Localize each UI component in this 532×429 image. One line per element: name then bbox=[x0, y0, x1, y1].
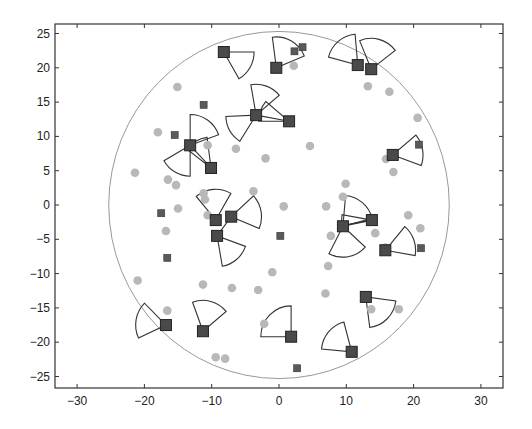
target-circle bbox=[172, 181, 181, 190]
target-circle bbox=[385, 88, 394, 97]
sensor-marker bbox=[387, 149, 398, 160]
sensor-marker bbox=[286, 331, 297, 342]
target-circle bbox=[389, 168, 398, 177]
small-square-marker bbox=[277, 232, 284, 239]
y-tick-label: −10 bbox=[30, 267, 51, 281]
target-circle bbox=[211, 353, 220, 362]
y-tick-label: −25 bbox=[30, 370, 51, 384]
y-tick-label: 10 bbox=[37, 129, 51, 143]
x-tick-label: −10 bbox=[202, 394, 223, 408]
target-circle bbox=[306, 142, 315, 151]
sensor-marker bbox=[218, 47, 229, 58]
chart-figure: −30−20−100102030 −25−20−15−10−5051015202… bbox=[0, 0, 532, 429]
sensor-marker bbox=[337, 221, 348, 232]
target-circle bbox=[232, 144, 241, 153]
target-circle bbox=[290, 61, 299, 70]
sensor-marker bbox=[352, 60, 363, 71]
target-circle bbox=[199, 280, 208, 289]
target-circle bbox=[221, 354, 230, 363]
target-circle bbox=[163, 306, 172, 315]
target-circle bbox=[249, 187, 258, 196]
target-circle bbox=[404, 211, 413, 220]
small-square-marker bbox=[299, 44, 306, 51]
target-circle bbox=[413, 114, 422, 123]
small-square-marker bbox=[418, 245, 425, 252]
small-square-marker bbox=[200, 101, 207, 108]
sensor-marker bbox=[366, 64, 377, 75]
target-circle bbox=[133, 276, 142, 285]
target-circle bbox=[201, 195, 210, 204]
target-circle bbox=[154, 128, 163, 137]
target-circle bbox=[162, 227, 171, 236]
small-square-marker bbox=[415, 141, 422, 148]
x-tick-label: 10 bbox=[340, 394, 354, 408]
sensor-marker bbox=[271, 62, 282, 73]
x-tick-label: 30 bbox=[474, 394, 488, 408]
x-tick-label: 0 bbox=[276, 394, 283, 408]
sensor-marker bbox=[251, 110, 262, 121]
sensor-marker bbox=[366, 215, 377, 226]
sensor-marker bbox=[360, 291, 371, 302]
target-circle bbox=[203, 141, 212, 150]
small-square-marker bbox=[164, 254, 171, 261]
target-circle bbox=[367, 305, 376, 314]
y-tick-label: −20 bbox=[30, 335, 51, 349]
plot-area bbox=[55, 24, 503, 388]
target-circle bbox=[364, 82, 373, 91]
target-circle bbox=[416, 224, 425, 233]
x-tick-label: 20 bbox=[407, 394, 421, 408]
target-circle bbox=[394, 305, 403, 314]
target-circle bbox=[173, 83, 182, 92]
y-tick-label: 15 bbox=[37, 95, 51, 109]
sensor-marker bbox=[380, 245, 391, 256]
target-circle bbox=[260, 319, 269, 328]
target-circle bbox=[131, 168, 140, 177]
target-circle bbox=[268, 268, 277, 277]
sensor-marker bbox=[185, 140, 196, 151]
small-square-marker bbox=[291, 48, 298, 55]
y-tick-label: 5 bbox=[43, 164, 50, 178]
y-tick-label: 20 bbox=[37, 61, 51, 75]
y-tick-label: 25 bbox=[37, 27, 51, 41]
x-tick-label: −30 bbox=[67, 394, 88, 408]
sensor-marker bbox=[206, 162, 217, 173]
target-circle bbox=[261, 154, 270, 163]
target-circle bbox=[341, 179, 350, 188]
small-square-marker bbox=[171, 132, 178, 139]
target-circle bbox=[254, 286, 263, 295]
y-tick-label: −15 bbox=[30, 301, 51, 315]
x-tick-label: −20 bbox=[134, 394, 155, 408]
target-circle bbox=[327, 232, 336, 241]
target-circle bbox=[339, 192, 348, 201]
target-circle bbox=[321, 289, 330, 298]
target-circle bbox=[279, 202, 288, 211]
small-square-marker bbox=[158, 210, 165, 217]
sensor-marker bbox=[284, 116, 295, 127]
sensor-marker bbox=[226, 211, 237, 222]
sensor-marker bbox=[160, 320, 171, 331]
y-tick-label: −5 bbox=[36, 232, 50, 246]
target-circle bbox=[322, 202, 331, 211]
sensor-marker bbox=[346, 346, 357, 357]
sensor-marker bbox=[210, 215, 221, 226]
y-tick-label: 0 bbox=[43, 198, 50, 212]
sensor-marker bbox=[212, 230, 223, 241]
target-circle bbox=[174, 204, 183, 213]
target-circle bbox=[371, 229, 380, 238]
target-circle bbox=[324, 262, 333, 271]
sensor-marker bbox=[197, 326, 208, 337]
target-circle bbox=[228, 284, 237, 293]
target-circle bbox=[164, 175, 173, 184]
small-square-marker bbox=[294, 365, 301, 372]
